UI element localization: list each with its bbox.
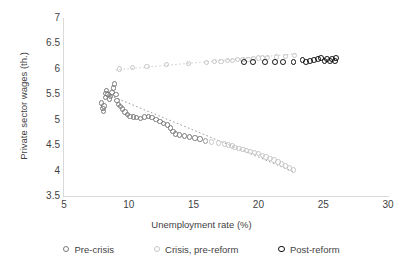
data-point — [117, 66, 122, 71]
data-point — [144, 64, 149, 69]
trendlines — [64, 18, 388, 196]
legend-label: Post-reform — [290, 244, 340, 255]
y-tick-label: 6 — [20, 64, 60, 74]
x-tick-label: 15 — [174, 200, 214, 210]
legend-label: Pre-crisis — [74, 244, 114, 255]
data-point — [291, 167, 296, 172]
y-tick-label: 5.5 — [20, 89, 60, 99]
legend-item-pre-crisis[interactable]: Pre-crisis — [63, 244, 114, 255]
data-point — [186, 61, 191, 66]
x-axis-ticks: 51015202530 — [0, 200, 403, 214]
data-point — [262, 59, 268, 65]
y-tick-label: 4.5 — [20, 140, 60, 150]
y-tick-label: 5 — [20, 115, 60, 125]
data-point — [113, 92, 118, 97]
chart-legend: Pre-crisis Crisis, pre-reform Post-refor… — [0, 241, 403, 257]
legend-label: Crisis, pre-reform — [165, 244, 238, 255]
legend-item-post-reform[interactable]: Post-reform — [278, 244, 339, 255]
data-point — [101, 103, 106, 108]
scatter-chart: Private sector wages (th.) Unemployment … — [0, 0, 403, 268]
data-point — [272, 59, 278, 65]
y-tick-label: 4 — [20, 166, 60, 176]
data-point — [291, 59, 297, 65]
x-axis-title: Unemployment rate (%) — [0, 219, 403, 230]
plot-area — [64, 18, 388, 196]
legend-item-crisis-pre-reform[interactable]: Crisis, pre-reform — [154, 244, 238, 255]
x-axis-line — [64, 196, 389, 197]
data-point — [250, 59, 256, 65]
data-point — [197, 136, 202, 141]
data-point — [216, 140, 221, 145]
trendline — [111, 96, 295, 172]
y-axis-ticks: 3.544.555.566.57 — [16, 0, 60, 268]
data-point — [203, 138, 208, 143]
x-tick-label: 20 — [238, 200, 278, 210]
x-tick-label: 5 — [44, 200, 84, 210]
data-point — [218, 59, 223, 64]
data-point — [112, 81, 117, 86]
x-tick-label: 25 — [303, 200, 343, 210]
x-tick-label: 10 — [109, 200, 149, 210]
data-point — [241, 59, 247, 65]
y-tick-label: 6.5 — [20, 38, 60, 48]
legend-marker-icon — [278, 246, 285, 253]
y-tick-label: 7 — [20, 13, 60, 23]
legend-marker-icon — [154, 246, 160, 252]
x-tick-label: 30 — [368, 200, 403, 210]
legend-marker-icon — [63, 246, 69, 252]
